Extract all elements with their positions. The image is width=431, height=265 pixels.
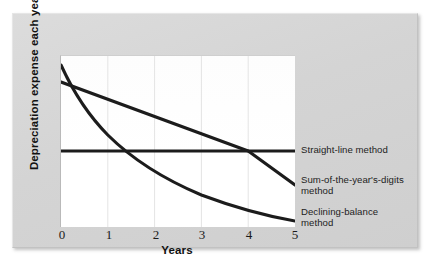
gridlines: [108, 56, 248, 227]
chart-screenshot: Depreciation expense each year 0: [0, 0, 431, 265]
x-tick-3: 3: [192, 227, 212, 243]
x-tick-2: 2: [146, 227, 166, 243]
x-axis-label: Years: [60, 244, 294, 256]
series-line-declining-balance: [61, 65, 295, 221]
legend-label-straight-line: Straight-line method: [301, 144, 388, 155]
figure-card: Depreciation expense each year 0: [12, 13, 418, 248]
series-line-sum-of-years-digits: [61, 82, 295, 185]
legend-label-declining-balance: Declining-balance method: [301, 206, 378, 228]
plot-svg: [61, 56, 295, 227]
x-tick-0: 0: [52, 227, 72, 243]
legend-label-sum-of-years-digits: Sum-of-the-year's-digits method: [301, 174, 404, 196]
plot-area: [60, 55, 295, 227]
x-tick-5: 5: [285, 227, 305, 243]
x-tick-1: 1: [99, 227, 119, 243]
x-tick-4: 4: [239, 227, 259, 243]
y-axis-label: Depreciation expense each year: [28, 0, 40, 176]
